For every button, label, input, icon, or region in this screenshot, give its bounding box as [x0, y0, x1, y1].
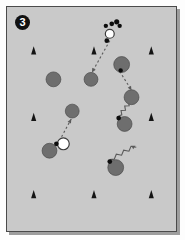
sensor-dot-8 [104, 38, 109, 43]
landmark-marker-1 [91, 46, 96, 54]
sensor-dot-0 [118, 68, 122, 72]
target-circle-1 [105, 29, 114, 38]
robot-disc-4 [65, 104, 79, 118]
sensor-dot-6 [114, 19, 119, 24]
panel-number-badge: 3 [15, 15, 30, 30]
target-circle-0 [57, 138, 69, 150]
path-right [120, 71, 132, 90]
robot-layer [42, 57, 139, 176]
sensor-dot-2 [107, 159, 112, 164]
path-lower-left-arrowhead [68, 119, 72, 124]
sensor-dot-7 [117, 24, 121, 28]
sensor-dot-4 [104, 24, 108, 28]
simulation-arena: 3 [6, 6, 177, 232]
landmark-marker-6 [91, 190, 96, 198]
arena-canvas [7, 7, 176, 231]
landmark-marker-5 [31, 190, 36, 198]
robot-disc-5 [42, 143, 57, 158]
squiggle-bottom-right-wave [110, 146, 136, 159]
path-top-center-line [92, 41, 110, 73]
sensor-dot-1 [116, 116, 121, 121]
target-layer [57, 29, 114, 149]
landmark-marker-3 [31, 113, 36, 121]
robot-disc-0 [46, 72, 61, 87]
landmark-marker-7 [149, 190, 154, 198]
sensor-dot-3 [54, 141, 59, 146]
robot-disc-1 [84, 72, 98, 86]
path-top-center [92, 41, 110, 73]
sensor-dot-5 [109, 21, 114, 26]
landmark-marker-0 [31, 46, 36, 54]
robot-disc-3 [124, 90, 139, 105]
figure-panel-3: 3 [0, 0, 185, 240]
path-lower-left [59, 119, 71, 141]
squiggle-bottom-right [110, 146, 136, 160]
landmark-marker-4 [149, 113, 154, 121]
landmark-marker-2 [149, 46, 154, 54]
